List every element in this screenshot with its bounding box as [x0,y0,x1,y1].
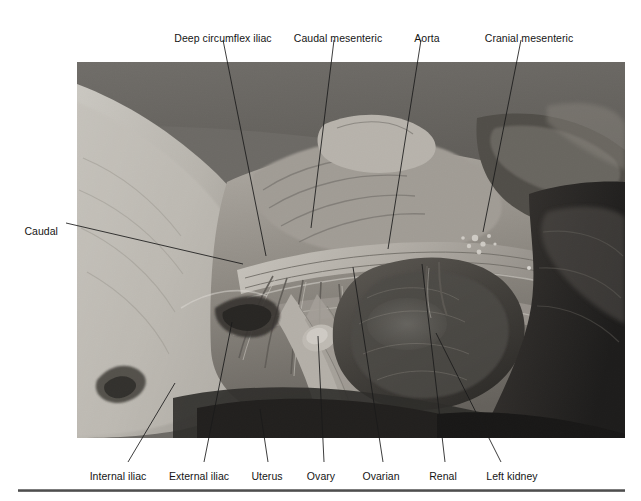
dissection-photograph [77,62,625,438]
label-caudal-mesenteric: Caudal mesenteric [294,32,382,44]
label-left-kidney: Left kidney [486,470,537,482]
label-caudal: Caudal [24,225,58,237]
photograph-content [77,62,625,438]
anatomy-figure: Deep circumflex iliacCaudal mesentericAo… [0,0,641,501]
label-renal: Renal [429,470,457,482]
label-ovary: Ovary [307,470,335,482]
label-internal-iliac: Internal iliac [90,470,147,482]
label-uterus: Uterus [251,470,282,482]
label-external-iliac: External iliac [169,470,229,482]
label-ovarian: Ovarian [362,470,399,482]
footer-rule [18,489,625,492]
label-cranial-mesenteric: Cranial mesenteric [485,32,573,44]
label-deep-circumflex-iliac: Deep circumflex iliac [174,32,271,44]
label-aorta: Aorta [414,32,439,44]
